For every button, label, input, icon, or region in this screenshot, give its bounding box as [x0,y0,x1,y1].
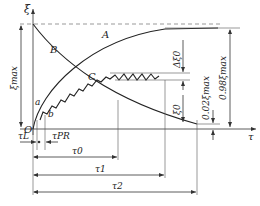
small-dim-label: 0.02ξmax [201,76,211,120]
tau-l-label: τL [18,131,29,141]
diagram-svg: ξ τ O A B C a b ξmax Δξ0 ξ0 0.02ξmax 0.9… [0,0,260,206]
tau1-label: τ1 [95,164,106,174]
curve-a-label: A [101,29,109,40]
y-axis-label: ξ [24,3,31,16]
tau0-label: τ0 [72,146,83,156]
large-dim-label: 0.98ξmax [218,56,228,100]
diagram-canvas: ξ τ O A B C a b ξmax Δξ0 ξ0 0.02ξmax 0.9… [0,0,260,206]
xi0-label: ξ0 [172,104,182,115]
curve-b-label: B [49,44,57,55]
tau2-label: τ2 [112,181,123,191]
point-b-label: b [48,109,54,119]
tau-l-dot [38,141,41,144]
curve-a [33,28,218,129]
xi-max-label: ξmax [9,66,19,90]
curve-c-label: C [88,71,96,82]
delta-xi0-label: Δξ0 [172,51,182,69]
curve-c-sawtooth [40,74,159,120]
tau-pr-label: τPR [52,131,70,141]
point-a-label: a [35,97,40,107]
x-axis-label: τ [248,131,254,142]
